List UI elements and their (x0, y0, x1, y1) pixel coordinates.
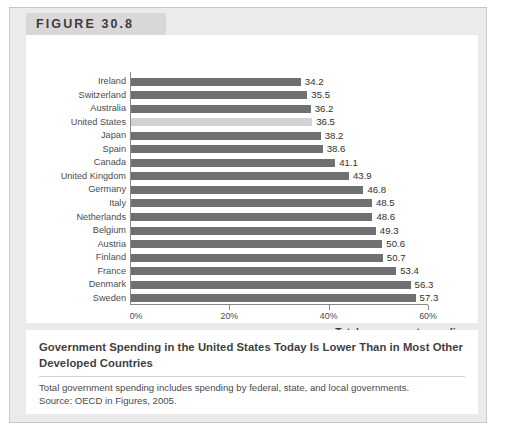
bar-category-label: Denmark (26, 278, 126, 291)
bar-row: Ireland34.2 (26, 75, 478, 88)
bar-category-label: Australia (26, 102, 126, 115)
caption-note: Total government spending includes spend… (39, 382, 469, 407)
figure-root: FIGURE 30.8 Total government spending as… (0, 0, 514, 443)
bar (131, 199, 372, 207)
bar (131, 159, 335, 167)
chart-panel: Total government spending as a percentag… (26, 35, 478, 323)
bar-row: Netherlands48.6 (26, 211, 478, 224)
bar-category-label: Austria (26, 238, 126, 251)
bar-category-label: Ireland (26, 75, 126, 88)
bar-value-label: 38.6 (327, 142, 346, 155)
bar-category-label: Finland (26, 251, 126, 264)
x-axis-tick (229, 305, 230, 310)
bar-row: United Kingdom43.9 (26, 170, 478, 183)
bar-category-label: Germany (26, 183, 126, 196)
bar-row: Finland50.7 (26, 251, 478, 264)
bar-row: Italy48.5 (26, 197, 478, 210)
bar (131, 118, 312, 126)
bar (131, 186, 363, 194)
bar-value-label: 35.5 (311, 88, 330, 101)
bar-row: Switzerland35.5 (26, 89, 478, 102)
bar-value-label: 57.3 (420, 291, 439, 304)
bar-value-label: 50.6 (386, 237, 405, 250)
bar-row: Australia36.2 (26, 102, 478, 115)
x-axis-tick-label: 0% (130, 311, 143, 321)
bar-category-label: Italy (26, 197, 126, 210)
bar (131, 78, 301, 86)
figure-number-band: FIGURE 30.8 (26, 13, 166, 35)
bar-category-label: Switzerland (26, 89, 126, 102)
bar (131, 132, 321, 140)
bar-row: United States36.5 (26, 116, 478, 129)
bar (131, 267, 396, 275)
bar-category-label: Canada (26, 156, 126, 169)
bar-value-label: 36.2 (315, 102, 334, 115)
bar (131, 240, 382, 248)
bar-value-label: 56.3 (415, 278, 434, 291)
caption-source-text: Source: OECD in Figures, 2005. (39, 395, 177, 406)
caption-panel: Government Spending in the United States… (26, 330, 478, 414)
x-axis-tick (329, 305, 330, 310)
bar-row: Spain38.6 (26, 143, 478, 156)
x-axis-tick-label: 60% (419, 311, 437, 321)
x-axis-tick-label: 20% (221, 311, 239, 321)
bar (131, 227, 376, 235)
bar-row: Japan38.2 (26, 129, 478, 142)
caption-title: Government Spending in the United States… (39, 340, 465, 371)
bar-value-label: 38.2 (325, 129, 344, 142)
bar (131, 213, 372, 221)
x-axis-tick-label: 40% (320, 311, 338, 321)
bar (131, 294, 416, 302)
bar-row: Germany46.8 (26, 183, 478, 196)
bar-row: Sweden57.3 (26, 292, 478, 305)
bar-value-label: 43.9 (353, 169, 372, 182)
bar (131, 145, 323, 153)
bar-category-label: Netherlands (26, 211, 126, 224)
bar-row: France53.4 (26, 265, 478, 278)
caption-divider (39, 376, 465, 377)
bar-chart-plot: Total government spending as a percentag… (26, 35, 478, 323)
bar-value-label: 48.6 (376, 210, 395, 223)
bar-value-label: 41.1 (339, 156, 358, 169)
bar-value-label: 48.5 (376, 196, 395, 209)
bar (131, 254, 383, 262)
x-axis-tick (428, 305, 429, 310)
bar-category-label: France (26, 265, 126, 278)
bar-value-label: 50.7 (387, 251, 406, 264)
figure-number-label: FIGURE 30.8 (36, 17, 134, 31)
bar (131, 91, 307, 99)
bar-value-label: 49.3 (380, 224, 399, 237)
bar-row: Denmark56.3 (26, 278, 478, 291)
bar-row: Canada41.1 (26, 156, 478, 169)
bar-row: Belgium49.3 (26, 224, 478, 237)
bar-row: Austria50.6 (26, 238, 478, 251)
bar (131, 281, 411, 289)
bar (131, 105, 311, 113)
caption-note-text: Total government spending includes spend… (39, 382, 409, 393)
bar-category-label: Sweden (26, 292, 126, 305)
bar-value-label: 34.2 (305, 75, 324, 88)
bar-category-label: Belgium (26, 224, 126, 237)
bar-category-label: United Kingdom (26, 170, 126, 183)
bar-value-label: 36.5 (316, 115, 335, 128)
bar-value-label: 53.4 (400, 264, 419, 277)
bar-category-label: Spain (26, 143, 126, 156)
bar-category-label: United States (26, 116, 126, 129)
bar-category-label: Japan (26, 129, 126, 142)
bar-value-label: 46.8 (367, 183, 386, 196)
bar (131, 172, 349, 180)
